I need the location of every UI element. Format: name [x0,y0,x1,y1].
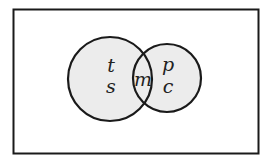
left-label-s: s [106,75,116,97]
venn-diagram: t s m p c [0,0,276,158]
right-label-c: c [163,75,174,97]
left-label-t: t [107,54,115,76]
intersection-label-m: m [134,68,152,90]
right-label-p: p [162,53,174,75]
